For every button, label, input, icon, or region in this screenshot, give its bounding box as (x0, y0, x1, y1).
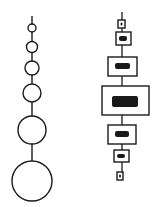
circle-node-5 (18, 116, 46, 144)
box-inner-fill-4 (112, 96, 138, 107)
box-inner-fill-6 (117, 154, 125, 158)
diagram-canvas (0, 0, 160, 207)
circle-node-2 (27, 42, 38, 53)
circle-node-6 (12, 161, 52, 201)
box-inner-fill-1 (121, 23, 123, 26)
box-inner-fill-2 (119, 36, 127, 41)
circle-node-4 (23, 84, 41, 102)
box-inner-fill-5 (115, 131, 129, 137)
box-chain (102, 12, 149, 180)
circle-chain (12, 16, 52, 201)
circle-node-3 (25, 61, 39, 75)
box-inner-fill-3 (115, 63, 130, 69)
circle-node-1 (28, 24, 36, 32)
box-inner-fill-7 (119, 175, 121, 178)
